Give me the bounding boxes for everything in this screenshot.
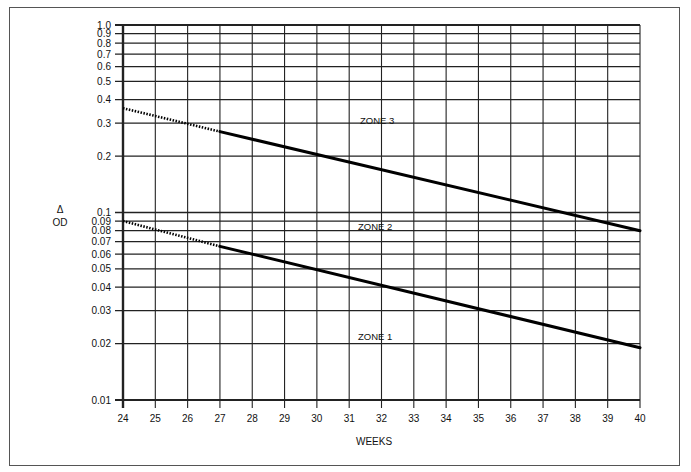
- x-tick-label: 32: [376, 413, 388, 424]
- y-axis-ticks: 0.010.020.030.040.050.060.070.080.090.10…: [92, 20, 112, 406]
- y-tick-label: 0.06: [92, 249, 112, 260]
- y-tick-label: 0.8: [97, 38, 111, 49]
- x-tick-label: 25: [150, 413, 162, 424]
- x-tick-label: 33: [408, 413, 420, 424]
- x-tick-label: 29: [279, 413, 291, 424]
- y-tick-label: 0.03: [92, 305, 112, 316]
- y-tick-label: 0.1: [97, 207, 111, 218]
- x-tick-label: 37: [538, 413, 550, 424]
- y-tick-label: 0.5: [97, 76, 111, 87]
- x-tick-label: 31: [344, 413, 356, 424]
- y-axis-title-delta: Δ: [57, 204, 64, 215]
- x-tick-label: 38: [570, 413, 582, 424]
- y-tick-label: 0.6: [97, 61, 111, 72]
- zone-2-label: ZONE 2: [358, 221, 392, 232]
- series-2-solid: [220, 246, 640, 347]
- y-tick-label: 0.4: [97, 94, 111, 105]
- x-tick-label: 36: [505, 413, 517, 424]
- x-tick-label: 24: [117, 413, 129, 424]
- y-tick-label: 0.07: [92, 236, 112, 247]
- y-axis-title-od: OD: [53, 217, 68, 228]
- y-tick-label: 0.05: [92, 263, 112, 274]
- y-tick-label: 1.0: [97, 20, 111, 31]
- y-tick-label: 0.04: [92, 282, 112, 293]
- series-1-dotted: [123, 108, 220, 131]
- series-2-dotted: [123, 221, 220, 246]
- x-axis-ticks: 2425262728293031323334353637383940: [117, 413, 646, 424]
- x-tick-label: 27: [214, 413, 226, 424]
- x-tick-label: 35: [473, 413, 485, 424]
- series-1-solid: [220, 132, 640, 231]
- y-tick-label: 0.01: [92, 395, 112, 406]
- y-tick-label: 0.3: [97, 118, 111, 129]
- y-tick-label: 0.7: [97, 49, 111, 60]
- x-tick-label: 26: [182, 413, 194, 424]
- y-tick-label: 0.02: [92, 338, 112, 349]
- x-tick-label: 40: [634, 413, 646, 424]
- x-tick-label: 28: [247, 413, 259, 424]
- x-axis-title: WEEKS: [356, 436, 392, 447]
- x-tick-label: 34: [441, 413, 453, 424]
- x-tick-label: 30: [311, 413, 323, 424]
- grid-lines: [115, 25, 640, 408]
- y-tick-label: 0.2: [97, 151, 111, 162]
- x-tick-label: 39: [602, 413, 614, 424]
- zone-1-label: ZONE 1: [358, 331, 392, 342]
- zone-3-label: ZONE 3: [360, 115, 394, 126]
- liley-chart: 0.010.020.030.040.050.060.070.080.090.10…: [0, 0, 691, 472]
- y-tick-label: 0.08: [92, 225, 112, 236]
